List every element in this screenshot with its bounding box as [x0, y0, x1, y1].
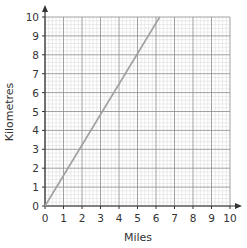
x-tick-label: 6 — [153, 212, 160, 224]
y-tick-label: 4 — [32, 124, 39, 136]
y-tick-label: 1 — [32, 181, 39, 193]
y-tick-label: 0 — [32, 200, 39, 212]
x-tick-label: 7 — [171, 212, 178, 224]
y-tick-label: 10 — [26, 11, 39, 23]
x-axis-arrow-icon — [235, 203, 242, 209]
y-axis-tick-labels: 012345678910 — [26, 11, 40, 212]
x-tick-label: 3 — [97, 212, 104, 224]
y-axis-arrow-icon — [42, 5, 48, 12]
x-tick-label: 9 — [208, 212, 215, 224]
x-tick-label: 10 — [223, 212, 236, 224]
x-tick-label: 5 — [134, 212, 141, 224]
miles-to-kilometres-chart: 012345678910 012345678910 Miles Kilometr… — [0, 0, 247, 248]
y-tick-label: 7 — [32, 68, 39, 80]
y-tick-label: 8 — [32, 49, 39, 61]
y-tick-label: 3 — [32, 143, 39, 155]
x-tick-label: 2 — [79, 212, 86, 224]
x-axis-tick-labels: 012345678910 — [42, 212, 237, 224]
x-tick-label: 8 — [190, 212, 197, 224]
major-grid — [45, 17, 230, 206]
x-tick-label: 0 — [42, 212, 49, 224]
y-tick-label: 6 — [32, 87, 39, 99]
chart-canvas: 012345678910 012345678910 Miles Kilometr… — [0, 0, 247, 248]
x-tick-label: 4 — [116, 212, 123, 224]
y-axis-label: Kilometres — [3, 82, 16, 141]
x-tick-label: 1 — [60, 212, 67, 224]
x-axis-label: Miles — [124, 231, 152, 244]
y-tick-label: 2 — [32, 162, 39, 174]
y-tick-label: 5 — [32, 106, 39, 118]
y-tick-label: 9 — [32, 30, 39, 42]
